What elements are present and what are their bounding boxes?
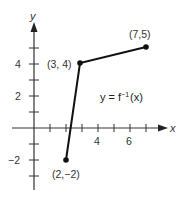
x-tick-label-4: 4 (94, 135, 100, 147)
y-axis-arrow-icon (31, 22, 38, 32)
x-axis-label: x (169, 122, 176, 134)
x-axis-arrow-icon (158, 125, 168, 132)
equation-argument: (x) (130, 91, 143, 103)
point-label-2-neg2: (2,−2) (52, 168, 80, 180)
function-graph: 4 6 4 2 −2 x y (2,−2) (3, 4) (7,5) y = f… (0, 0, 182, 197)
equation-label: y = f−1(x) (100, 91, 143, 103)
y-tick-label-4: 4 (15, 58, 21, 70)
point-2-neg2 (63, 157, 69, 163)
equation-superscript: −1 (121, 91, 129, 98)
y-axis-label: y (29, 10, 37, 22)
x-tick-label-6: 6 (126, 135, 132, 147)
y-tick-label-neg2: −2 (8, 154, 20, 166)
point-3-4 (77, 60, 83, 66)
axes (12, 30, 160, 190)
point-label-3-4: (3, 4) (47, 58, 72, 70)
point-7-5 (143, 44, 149, 50)
equation-main: y = f (100, 91, 122, 103)
y-tick-label-2: 2 (15, 90, 21, 102)
point-label-7-5: (7,5) (129, 28, 151, 40)
